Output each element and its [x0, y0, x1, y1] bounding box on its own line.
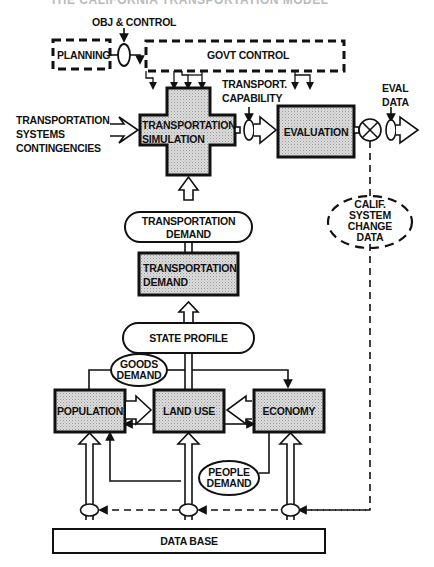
contingencies-arrow: [110, 117, 138, 143]
output-arrow: [396, 117, 418, 143]
demand-oval-label-2: DEMAND: [125, 228, 252, 240]
govt-control-label: GOVT CONTROL: [207, 49, 289, 61]
demand-box-label-2: DEMAND: [143, 276, 188, 288]
transportation-demand-box: [139, 253, 238, 295]
eval-data-label-1: EVAL: [382, 82, 408, 94]
calif-label-4: DATA: [340, 232, 400, 243]
contingencies-label-1: TRANSPORTATION: [16, 114, 110, 126]
transport-capability-label-2: CAPABILITY: [222, 92, 282, 104]
people-demand-label-2: DEMAND: [199, 478, 259, 489]
obj-control-label: OBJ & CONTROL: [92, 16, 176, 28]
eval-data-oval: [386, 120, 396, 140]
planning-label: PLANNING: [57, 49, 110, 61]
evaluation-label: EVALUATION: [278, 126, 354, 138]
transport-capability-label-1: TRANSPORT.: [222, 78, 287, 90]
transportation-simulation-cross: [140, 88, 235, 175]
land-use-label: LAND USE: [154, 405, 224, 417]
population-label: POPULATION: [55, 405, 125, 417]
contingencies-label-2: SYSTEMS: [16, 128, 65, 140]
simulation-label-2: SIMULATION: [142, 133, 205, 145]
feedback-dashed-line: [290, 141, 370, 510]
capability-arrow: [254, 117, 276, 143]
demand-oval-label-1: TRANSPORTATION: [125, 215, 252, 227]
goods-demand-label-2: DEMAND: [111, 370, 167, 381]
state-profile-label: STATE PROFILE: [123, 332, 254, 344]
capability-oval: [244, 120, 254, 140]
economy-label: ECONOMY: [254, 405, 324, 417]
demand-box-label-1: TRANSPORTATION: [143, 262, 237, 274]
simulation-label-1: TRANSPORTATION: [142, 119, 236, 131]
contingencies-label-3: CONTINGENCIES: [16, 142, 101, 154]
data-base-label: DATA BASE: [53, 535, 325, 547]
eval-data-label-2: DATA: [382, 96, 409, 108]
control-oval: [118, 44, 130, 66]
